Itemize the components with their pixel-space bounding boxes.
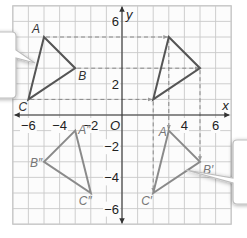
vertex-label-original: C <box>18 100 27 114</box>
vertex-label-reflection: A″ <box>77 123 91 137</box>
y-tick-label: 2 <box>112 77 119 92</box>
vertex-label-image: C′ <box>141 194 153 208</box>
x-tick-label: −4 <box>52 118 67 133</box>
y-tick-label: −6 <box>104 202 119 217</box>
vertex-label-original: B <box>78 69 86 83</box>
x-tick-label: 4 <box>181 118 188 133</box>
vertex-label-reflection: B″ <box>30 156 43 170</box>
coordinate-plane: −6−4−24662−2−4−6OxyABCA′B′C′A″B″C″ <box>0 0 247 238</box>
y-tick-label: −4 <box>104 170 119 185</box>
vertex-label-image: A′ <box>158 125 170 139</box>
vertex-label-reflection: C″ <box>79 194 93 208</box>
x-axis-label: x <box>221 98 229 113</box>
coordinate-plane-figure: −6−4−24662−2−4−6OxyABCA′B′C′A″B″C″ <box>0 0 247 238</box>
y-tick-label: 6 <box>112 14 119 29</box>
x-tick-label: −6 <box>21 118 36 133</box>
y-tick-label: −2 <box>104 139 119 154</box>
x-tick-label: 6 <box>212 118 219 133</box>
origin-label: O <box>110 118 120 133</box>
vertex-label-original: A <box>31 22 40 36</box>
